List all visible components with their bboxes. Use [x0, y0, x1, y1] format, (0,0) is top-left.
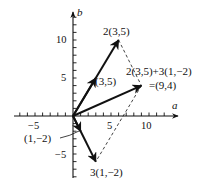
label-sum-result: =(9,4): [149, 79, 177, 92]
x-tick-label-neg5: −5: [28, 120, 39, 131]
label-3w: 3(1,−2): [90, 166, 123, 179]
y-tick-label-10: 10: [56, 34, 67, 45]
vector-diagram: a b −5 5 10 10 5 −5 2(3,5) (3,5) 2(3,5)+…: [0, 0, 211, 182]
dashed-line-sum-to-3w: [96, 86, 142, 162]
y-tick-label-5: 5: [61, 72, 66, 83]
a-axis-label: a: [172, 99, 178, 111]
label-2v: 2(3,5): [103, 25, 130, 38]
dashed-lines: [96, 40, 142, 162]
axes: a b: [14, 6, 178, 178]
y-tick-label-neg5: −5: [55, 149, 66, 160]
b-axis-label: b: [77, 6, 83, 18]
label-sum: 2(3,5)+3(1,−2): [126, 65, 192, 78]
dashed-line-2v-to-sum: [119, 40, 142, 86]
label-w: (1,−2): [24, 132, 52, 145]
leader-line-w: [60, 131, 79, 138]
x-tick-label-10: 10: [141, 120, 152, 131]
label-v: (3,5): [95, 75, 116, 88]
vector-labels: 2(3,5) (3,5) 2(3,5)+3(1,−2) =(9,4) (1,−2…: [24, 25, 192, 179]
x-tick-label-5: 5: [107, 120, 112, 131]
